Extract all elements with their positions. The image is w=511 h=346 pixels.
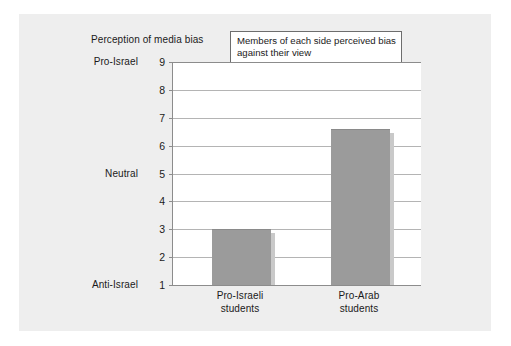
- y-tick-label-3: 3: [159, 224, 165, 234]
- y-tick-5: [169, 174, 173, 175]
- y-tick-2: [169, 257, 173, 258]
- y-axis-anchor-labels: Pro-IsraelNeutralAnti-Israel: [20, 62, 138, 285]
- gridline-7: [173, 118, 421, 119]
- annotation-callout: Members of each side perceived bias agai…: [230, 31, 402, 64]
- y-axis-tick-labels: 123456789: [145, 62, 165, 285]
- y-tick-label-5: 5: [159, 169, 165, 179]
- x-category-label-1: Pro-Arabstudents: [299, 290, 419, 315]
- y-tick-label-1: 1: [159, 280, 165, 290]
- y-anchor-label-neutral: Neutral: [105, 169, 138, 179]
- figure: Perception of media bias Members of each…: [0, 0, 511, 346]
- y-tick-8: [169, 90, 173, 91]
- x-category-label-line: Pro-Israeli: [180, 290, 300, 303]
- x-category-label-line: students: [299, 303, 419, 316]
- gridline-1: [173, 285, 421, 286]
- x-category-label-line: Pro-Arab: [299, 290, 419, 303]
- annotation-text: Members of each side perceived bias agai…: [237, 35, 396, 58]
- y-anchor-label-anti-israel: Anti-Israel: [92, 280, 138, 290]
- y-anchor-label-pro-israel: Pro-Israel: [94, 57, 138, 67]
- y-tick-3: [169, 229, 173, 230]
- y-tick-7: [169, 118, 173, 119]
- y-tick-label-7: 7: [159, 113, 165, 123]
- y-tick-label-9: 9: [159, 57, 165, 67]
- page-title: Perception of media bias: [91, 34, 203, 45]
- y-tick-6: [169, 146, 173, 147]
- gridline-8: [173, 90, 421, 91]
- y-tick-label-6: 6: [159, 141, 165, 151]
- y-tick-1: [169, 285, 173, 286]
- y-tick-9: [169, 62, 173, 63]
- x-category-label-line: students: [180, 303, 300, 316]
- y-tick-label-2: 2: [159, 252, 165, 262]
- bar-1[interactable]: [331, 129, 390, 285]
- y-tick-label-8: 8: [159, 85, 165, 95]
- bar-0[interactable]: [212, 229, 271, 285]
- y-tick-label-4: 4: [159, 196, 165, 206]
- y-tick-4: [169, 201, 173, 202]
- plot-area: [172, 62, 421, 285]
- x-category-label-0: Pro-Israelistudents: [180, 290, 300, 315]
- gridline-9: [173, 62, 421, 63]
